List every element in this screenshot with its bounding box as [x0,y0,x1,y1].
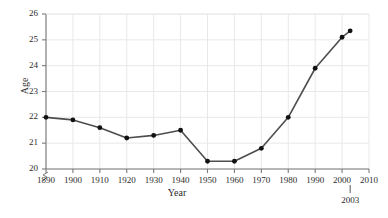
x-tick-label: 1900 [58,175,88,185]
x-tick-label: 1910 [85,175,115,185]
x-tick-label: 2000 [327,175,357,185]
x-tick-label: 1980 [273,175,303,185]
annotation-label-2003: 2003 [328,195,372,205]
y-axis-title: Age [17,66,33,106]
gridlines [46,14,369,169]
line-chart-plot [0,0,388,218]
chart-figure: 20212223242526 1890190019101920193019401… [0,0,388,218]
x-tick-label: 1920 [112,175,142,185]
x-tick-label: 2010 [354,175,384,185]
x-tick-label: 1990 [300,175,330,185]
x-tick-label: 1950 [193,175,223,185]
x-tick-label: 1970 [246,175,276,185]
y-tick-label: 20 [20,163,38,173]
data-series-age [46,31,350,161]
chart-title [0,0,388,5]
x-tick-label: 1890 [31,175,61,185]
y-tick-label: 26 [20,8,38,18]
x-tick-label: 1960 [219,175,249,185]
tick-marks [42,14,369,173]
y-tick-label: 21 [20,137,38,147]
x-tick-label: 1940 [166,175,196,185]
y-tick-label: 25 [20,34,38,44]
x-axis-title-text: Year [168,187,186,198]
y-tick-label: 22 [20,111,38,121]
x-tick-label: 1930 [139,175,169,185]
